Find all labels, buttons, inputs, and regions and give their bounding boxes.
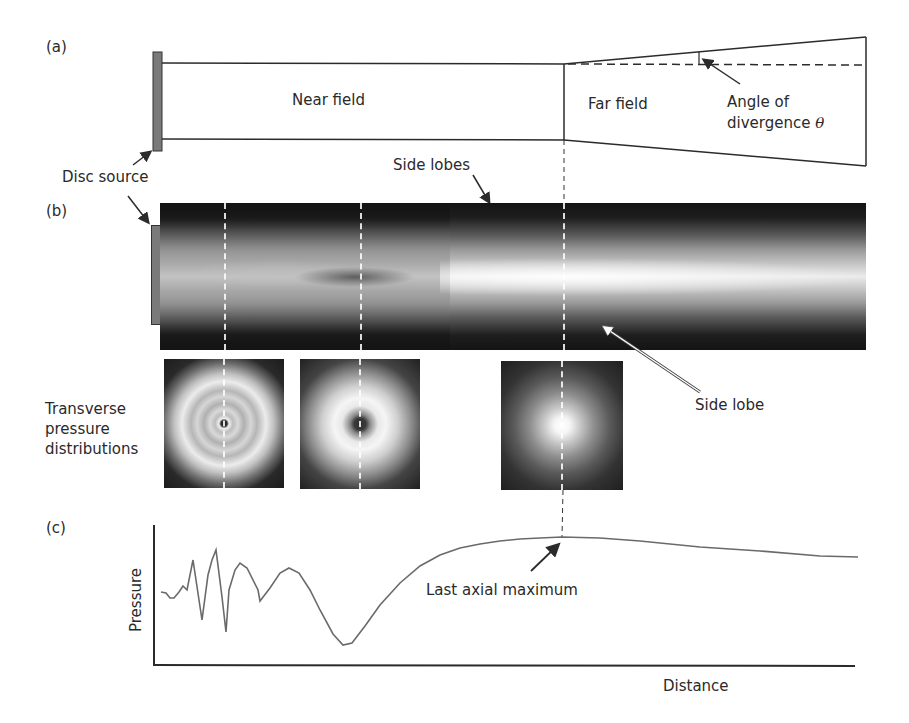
x-axis (153, 665, 855, 666)
x-axis-label: Distance (663, 677, 729, 695)
last-axial-maximum-label: Last axial maximum (426, 581, 578, 599)
last-max-arrow (531, 545, 558, 571)
y-axis-label: Pressure (127, 565, 145, 635)
